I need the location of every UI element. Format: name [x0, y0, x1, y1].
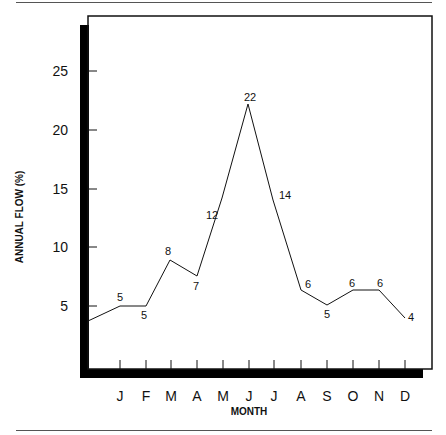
y-tick-20: 20 — [52, 122, 68, 138]
label-sep: 5 — [324, 308, 330, 320]
x-tick-dec: D — [400, 388, 410, 404]
frame-shadow-bottom — [80, 369, 423, 378]
y-tick-5: 5 — [60, 298, 68, 314]
x-tick-sep: S — [322, 388, 331, 404]
x-tick-labels: J F M A M J J A S O N D — [117, 388, 411, 404]
plot-frame — [88, 16, 432, 369]
line-chart: 5 10 15 20 25 J F M A M J J A S O N D MO… — [0, 0, 446, 435]
x-tick-mar: M — [165, 388, 177, 404]
y-ticks — [88, 71, 97, 306]
label-oct: 6 — [349, 277, 355, 289]
label-mar: 8 — [165, 245, 171, 257]
label-jan: 5 — [117, 291, 123, 303]
x-tick-oct: O — [348, 388, 359, 404]
x-tick-jan: J — [117, 388, 124, 404]
x-tick-aug: A — [296, 388, 306, 404]
y-tick-labels: 5 10 15 20 25 — [52, 63, 68, 314]
x-tick-jul: J — [271, 388, 278, 404]
flow-line — [88, 104, 405, 321]
label-nov: 6 — [377, 277, 383, 289]
label-feb: 5 — [141, 309, 147, 321]
x-axis-title: MONTH — [231, 406, 268, 417]
x-tick-nov: N — [374, 388, 384, 404]
x-ticks — [120, 360, 405, 369]
x-tick-may: M — [217, 388, 229, 404]
label-may: 12 — [206, 209, 218, 221]
label-dec: 4 — [408, 311, 414, 323]
x-tick-jun: J — [246, 388, 253, 404]
label-aug: 6 — [305, 278, 311, 290]
y-axis-title: ANNUAL FLOW (%) — [14, 171, 25, 264]
label-apr: 7 — [193, 280, 199, 292]
label-jun: 22 — [244, 91, 256, 103]
y-tick-25: 25 — [52, 63, 68, 79]
label-jul: 14 — [279, 189, 291, 201]
y-tick-15: 15 — [52, 181, 68, 197]
y-tick-10: 10 — [52, 239, 68, 255]
x-tick-apr: A — [192, 388, 202, 404]
x-tick-feb: F — [142, 388, 151, 404]
point-labels: 5 5 8 7 12 22 14 6 5 6 6 4 — [117, 91, 414, 323]
